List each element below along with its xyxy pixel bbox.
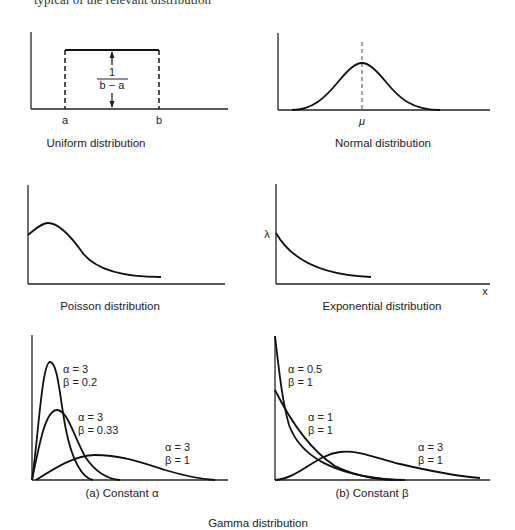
normal-caption: Normal distribution	[335, 137, 431, 149]
curve-label-beta: β = 0.33	[78, 424, 118, 436]
arrow-down-icon	[110, 101, 115, 108]
curve-label-alpha: α = 3	[63, 363, 88, 375]
curve-label-alpha: α = 3	[418, 441, 443, 453]
gamma-constant-alpha-panel: α = 3 β = 0.2 α = 3 β = 0.33 α = 3 β = 1…	[32, 335, 228, 499]
label-x: x	[482, 285, 488, 297]
curve-label-beta: β = 1	[165, 454, 190, 466]
label-a: a	[62, 114, 69, 126]
normal-curve	[292, 63, 440, 110]
curve-label-alpha: α = 3	[78, 411, 103, 423]
height-denominator: b − a	[100, 79, 126, 91]
arrow-up-icon	[110, 51, 115, 58]
height-numerator: 1	[109, 66, 115, 78]
exponential-curve	[276, 233, 371, 277]
poisson-panel: Poisson distribution	[28, 185, 225, 312]
gamma-a-caption: (a) Constant α	[85, 487, 158, 499]
curve-label-beta: β = 0.2	[63, 376, 97, 388]
curve-label-alpha: α = 1	[308, 411, 333, 423]
curve-label-beta: β = 1	[308, 424, 333, 436]
gamma-curve-beta-0.33	[32, 410, 120, 480]
uniform-panel: 1 b − a a b Uniform distribution	[31, 32, 228, 149]
curve-label-alpha: α = 0.5	[288, 363, 322, 375]
exponential-caption: Exponential distribution	[323, 300, 442, 312]
curve-label-beta: β = 1	[288, 376, 313, 388]
poisson-curve	[28, 223, 161, 277]
label-mu: μ	[358, 115, 365, 127]
curve-label-alpha: α = 3	[165, 441, 190, 453]
gamma-b-caption: (b) Constant β	[335, 487, 408, 499]
distribution-figure: typical of the relevant distribution 1 b…	[0, 0, 515, 530]
header-fragment: typical of the relevant distribution	[34, 0, 211, 7]
uniform-caption: Uniform distribution	[46, 137, 145, 149]
curve-label-beta: β = 1	[418, 454, 443, 466]
label-lambda: λ	[264, 228, 270, 240]
gamma-curve-alpha-3	[275, 452, 480, 480]
gamma-constant-beta-panel: α = 0.5 β = 1 α = 1 β = 1 α = 3 β = 1 (b…	[275, 336, 490, 499]
label-b: b	[156, 114, 162, 126]
poisson-caption: Poisson distribution	[60, 300, 160, 312]
exponential-panel: λ x Exponential distribution	[264, 184, 490, 312]
normal-panel: μ Normal distribution	[278, 33, 490, 149]
gamma-caption: Gamma distribution	[208, 517, 308, 529]
